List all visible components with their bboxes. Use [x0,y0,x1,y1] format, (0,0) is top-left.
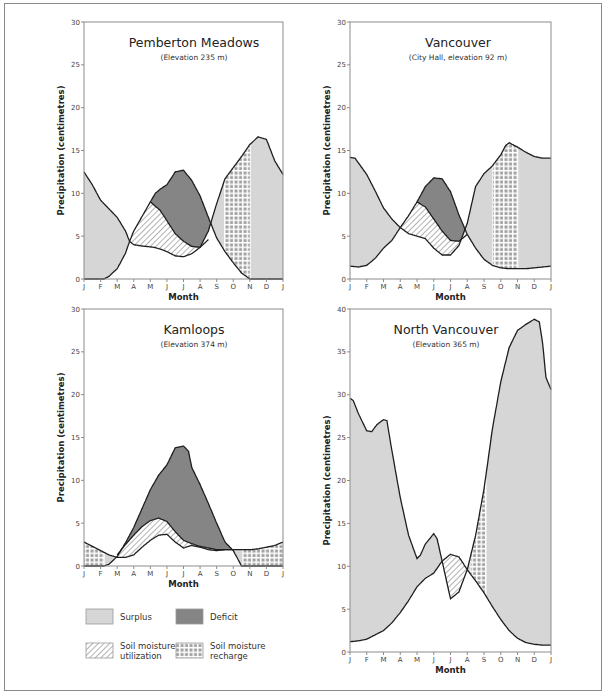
chart-vancouver: 051015202530JFMAMJJASONDJMonthPrecipitat… [322,19,552,303]
chart-title: Kamloops [163,322,224,337]
x-tick-label: D [264,283,269,291]
legend: SurplusDeficitSoil moistureutilizationSo… [86,609,266,661]
y-tick-label: 0 [342,649,346,657]
y-tick-label: 20 [71,104,80,112]
y-tick-label: 30 [71,306,80,314]
legend-item-recharge: Soil moisturerecharge [176,641,266,661]
y-tick-label: 30 [337,19,346,27]
utilization-swatch-icon [86,643,113,658]
x-tick-label: J [432,656,435,664]
soil-recharge-area [493,143,517,269]
x-tick-label: M [114,283,120,291]
x-tick-label: A [398,656,403,664]
y-tick-label: 30 [337,391,346,399]
y-tick-label: 20 [337,477,346,485]
x-tick-label: M [414,656,420,664]
y-tick-label: 25 [71,61,80,69]
deficit-swatch-icon [176,609,203,624]
soil-recharge-area [243,542,283,566]
y-tick-label: 0 [76,563,80,571]
x-tick-label: O [498,656,504,664]
y-tick-label: 5 [76,233,80,241]
surplus-area [251,137,283,279]
x-tick-label: M [414,283,420,291]
y-tick-label: 10 [337,563,346,571]
x-tick-label: N [515,656,520,664]
y-tick-label: 35 [337,348,346,356]
x-tick-label: M [380,283,386,291]
soil-recharge-area [225,145,250,280]
chart-kamloops: 051015202530JFMAMJJASONDJMonthPrecipitat… [56,306,284,590]
x-tick-label: A [198,570,203,578]
legend-label: Soil moisture [120,641,176,651]
y-tick-label: 15 [71,434,80,442]
y-tick-label: 5 [76,520,80,528]
x-tick-label: F [365,656,369,664]
x-tick-label: S [214,570,219,578]
x-tick-label: J [82,570,85,578]
x-tick-label: J [281,283,284,291]
x-tick-label: J [348,283,351,291]
chart-title: Vancouver [425,35,492,50]
x-tick-label: J [165,570,168,578]
chart-north-vancouver: 0510152025303540JFMAMJJASONDJMonthPrecip… [322,306,552,676]
x-tick-label: M [380,656,386,664]
x-tick-label: N [247,570,252,578]
x-axis-title: Month [435,292,465,302]
chart-subtitle: (Elevation 235 m) [160,53,227,62]
y-tick-label: 15 [337,147,346,155]
x-tick-label: O [230,283,236,291]
y-tick-label: 10 [71,190,80,198]
x-tick-label: F [99,570,103,578]
surplus-swatch-icon [86,609,113,624]
chart-pemberton-meadows: 051015202530JFMAMJJASONDJMonthPrecipitat… [56,19,284,303]
x-tick-label: J [181,570,184,578]
legend-label: Surplus [120,612,152,622]
x-tick-label: F [99,283,103,291]
x-tick-label: A [465,283,470,291]
legend-item-utilization: Soil moistureutilization [86,641,176,661]
surplus-area [350,398,441,642]
x-tick-label: D [532,283,537,291]
soil-utilization-area [443,554,466,599]
climographs-canvas: 051015202530JFMAMJJASONDJMonthPrecipitat… [0,0,612,699]
x-axis-title: Month [435,665,465,675]
y-tick-label: 0 [76,276,80,284]
y-tick-label: 5 [342,606,346,614]
x-tick-label: N [515,283,520,291]
y-tick-label: 5 [342,233,346,241]
legend-label: utilization [120,651,162,661]
recharge-swatch-icon [176,643,203,658]
legend-label: Deficit [210,612,238,622]
x-tick-label: A [398,283,403,291]
y-tick-label: 0 [342,276,346,284]
y-tick-label: 20 [71,391,80,399]
y-tick-label: 25 [71,348,80,356]
y-tick-label: 20 [337,104,346,112]
x-axis-title: Month [168,292,198,302]
legend-label: Soil moisture [210,641,266,651]
x-axis-title: Month [168,579,198,589]
x-tick-label: O [498,283,504,291]
x-tick-label: S [214,283,219,291]
x-tick-label: O [230,570,236,578]
x-tick-label: J [82,283,85,291]
y-tick-label: 30 [71,19,80,27]
legend-label: recharge [210,651,248,661]
chart-subtitle: (Elevation 365 m) [412,340,479,349]
x-tick-label: N [247,283,252,291]
x-tick-label: J [348,656,351,664]
chart-title: Pemberton Meadows [129,35,260,50]
x-tick-label: J [549,656,552,664]
y-axis-title: Precipitation (centimetres) [56,372,66,502]
x-tick-label: A [198,283,203,291]
x-tick-label: M [147,283,153,291]
chart-subtitle: (City Hall, elevation 92 m) [409,53,508,62]
y-tick-label: 25 [337,61,346,69]
y-tick-label: 10 [71,477,80,485]
y-tick-label: 10 [337,190,346,198]
y-tick-label: 15 [337,520,346,528]
x-tick-label: M [147,570,153,578]
y-axis-title: Precipitation (centimetres) [322,415,332,545]
x-tick-label: D [264,570,269,578]
